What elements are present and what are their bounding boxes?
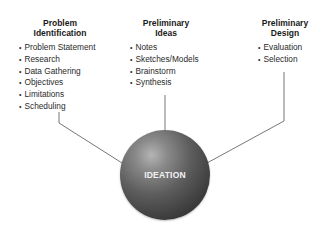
list-item: Evaluation	[258, 42, 326, 54]
problem-identification-column: Problem Identification Problem Statement…	[19, 19, 119, 113]
connector-problem-identification	[59, 112, 122, 163]
list-item: Research	[19, 54, 119, 66]
ideation-sphere: IDEATION	[120, 130, 210, 220]
list-item: Scheduling	[19, 101, 119, 113]
list-item: Notes	[130, 42, 220, 54]
list-item: Limitations	[19, 89, 119, 101]
list-item: Brainstorm	[130, 66, 220, 78]
list-item: Problem Statement	[19, 42, 119, 54]
list-item: Synthesis	[130, 77, 220, 89]
list-item: Data Gathering	[19, 66, 119, 78]
heading-line: Design	[258, 29, 312, 39]
preliminary-ideas-column: Preliminary Ideas Notes Sketches/Models …	[130, 19, 220, 89]
list-item: Sketches/Models	[130, 54, 220, 66]
preliminary-design-column: Preliminary Design Evaluation Selection	[258, 19, 326, 66]
problem-identification-list: Problem Statement Research Data Gatherin…	[19, 42, 119, 113]
preliminary-ideas-heading: Preliminary Ideas	[130, 19, 202, 38]
preliminary-design-heading: Preliminary Design	[258, 19, 312, 38]
list-item: Selection	[258, 54, 326, 66]
heading-line: Identification	[19, 29, 101, 39]
preliminary-design-list: Evaluation Selection	[258, 42, 326, 66]
heading-line: Ideas	[130, 29, 202, 39]
preliminary-ideas-list: Notes Sketches/Models Brainstorm Synthes…	[130, 42, 220, 89]
problem-identification-heading: Problem Identification	[19, 19, 101, 38]
list-item: Objectives	[19, 77, 119, 89]
ideation-label: IDEATION	[144, 170, 186, 180]
